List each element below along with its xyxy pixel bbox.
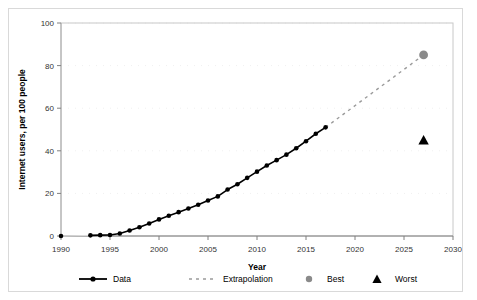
data-point-marker [265, 163, 270, 168]
data-point-marker [137, 225, 142, 230]
data-point-marker [157, 217, 162, 222]
y-tick-label: 80 [45, 62, 54, 71]
best-marker [419, 51, 428, 60]
data-point-marker [186, 206, 191, 211]
data-point-marker [59, 234, 64, 239]
data-point-marker [196, 202, 201, 207]
worst-marker [418, 135, 428, 145]
data-point-marker [245, 176, 250, 181]
y-tick-label: 100 [41, 19, 55, 28]
data-point-marker [167, 213, 172, 218]
y-tick-label: 40 [45, 147, 54, 156]
y-tick-label: 0 [50, 232, 55, 241]
legend-data-point-icon [90, 276, 95, 281]
x-tick-label: 2005 [199, 245, 217, 254]
data-point-marker [255, 169, 260, 174]
legend-worst-triangle-icon [372, 274, 381, 283]
data-point-marker [274, 158, 279, 163]
x-axis-title: Year [248, 262, 267, 272]
data-point-marker [216, 194, 221, 199]
data-point-marker [176, 210, 181, 215]
legend-best-circle-icon [306, 276, 312, 282]
extrapolation-line [326, 55, 424, 127]
data-point-marker [284, 152, 289, 157]
x-tick-label: 1990 [52, 245, 70, 254]
data-gap-connector [61, 235, 90, 236]
legend-label: Extrapolation [223, 274, 273, 284]
legend-label: Best [327, 274, 345, 284]
y-tick-label: 60 [45, 104, 54, 113]
internet-users-chart: 0204060801001990199520002005201020152020… [9, 9, 462, 291]
data-point-marker [294, 146, 299, 151]
x-tick-label: 2030 [444, 245, 462, 254]
x-tick-label: 2010 [248, 245, 266, 254]
data-point-marker [147, 221, 152, 226]
x-tick-label: 2020 [346, 245, 364, 254]
data-point-marker [127, 228, 132, 233]
y-tick-label: 20 [45, 189, 54, 198]
data-point-marker [314, 131, 319, 136]
x-tick-label: 1995 [101, 245, 119, 254]
x-tick-label: 2025 [395, 245, 413, 254]
data-point-marker [304, 139, 309, 144]
data-line [90, 127, 325, 235]
x-tick-label: 2000 [150, 245, 168, 254]
plot-frame [61, 23, 453, 236]
data-point-marker [108, 233, 113, 238]
data-point-marker [98, 233, 103, 238]
data-point-marker [118, 231, 123, 236]
data-point-marker [225, 187, 230, 192]
data-point-marker [235, 182, 240, 187]
legend-label: Data [113, 274, 131, 284]
x-tick-label: 2015 [297, 245, 315, 254]
y-axis-title: Internet users, per 100 people [17, 69, 27, 190]
legend-label: Worst [395, 274, 418, 284]
data-point-marker [88, 233, 93, 238]
figure-panel: 0204060801001990199520002005201020152020… [8, 8, 463, 292]
data-point-marker [206, 198, 211, 203]
data-point-marker [323, 125, 328, 130]
